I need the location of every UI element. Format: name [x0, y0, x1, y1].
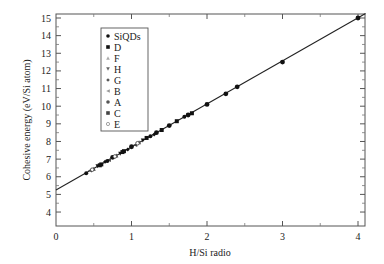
- data-point: [120, 150, 124, 154]
- data-point: [84, 171, 88, 175]
- legend-label: H: [114, 64, 121, 75]
- chart: 456789101112131415 01234 SiQDsDFHGBACE H…: [0, 0, 384, 264]
- y-tick-label: 6: [46, 171, 51, 182]
- data-point: [136, 141, 140, 145]
- y-tick-label: 15: [41, 13, 51, 24]
- y-tick-label: 8: [46, 136, 51, 147]
- y-axis: 456789101112131415: [41, 13, 365, 218]
- y-tick-label: 14: [41, 30, 51, 41]
- y-tick-label: 9: [46, 118, 51, 129]
- data-point: [186, 113, 191, 118]
- data-point: [205, 102, 210, 107]
- legend-label: A: [114, 97, 122, 108]
- x-axis-title: H/Si radio: [189, 247, 230, 258]
- x-tick-label: 3: [280, 231, 285, 242]
- data-point: [235, 84, 240, 89]
- data-point: [223, 91, 228, 96]
- y-tick-label: 4: [46, 207, 51, 218]
- legend-label: C: [114, 108, 121, 119]
- x-tick-label: 0: [54, 231, 59, 242]
- data-point: [141, 139, 145, 143]
- x-axis: 01234: [54, 14, 361, 242]
- data-point: [190, 111, 194, 115]
- data-point: [175, 119, 179, 123]
- x-tick-label: 1: [129, 231, 134, 242]
- y-tick-label: 7: [46, 154, 51, 165]
- data-point: [160, 128, 164, 132]
- y-tick-label: 13: [41, 48, 51, 59]
- legend-label: B: [114, 86, 121, 97]
- y-tick-label: 5: [46, 189, 51, 200]
- data-point: [129, 144, 134, 149]
- data-point: [105, 159, 109, 163]
- legend-label: F: [114, 53, 120, 64]
- data-point: [148, 134, 152, 138]
- x-tick-label: 4: [356, 231, 361, 242]
- legend: SiQDsDFHGBACE: [101, 28, 148, 131]
- x-tick-label: 2: [205, 231, 210, 242]
- data-point: [182, 115, 186, 119]
- legend-label: G: [114, 75, 121, 86]
- data-point: [356, 16, 361, 21]
- legend-label: E: [114, 119, 120, 130]
- y-tick-label: 11: [41, 83, 51, 94]
- data-point: [280, 60, 285, 65]
- y-tick-label: 12: [41, 65, 51, 76]
- data-point: [145, 136, 149, 140]
- data-point: [98, 163, 102, 167]
- data-point: [113, 155, 117, 159]
- data-point: [90, 168, 94, 172]
- y-tick-label: 10: [41, 101, 51, 112]
- data-point: [167, 123, 172, 128]
- legend-label: D: [114, 42, 121, 53]
- y-axis-title: Cohesive energy (eV/Si atom): [21, 59, 33, 180]
- legend-label: SiQDs: [114, 31, 141, 42]
